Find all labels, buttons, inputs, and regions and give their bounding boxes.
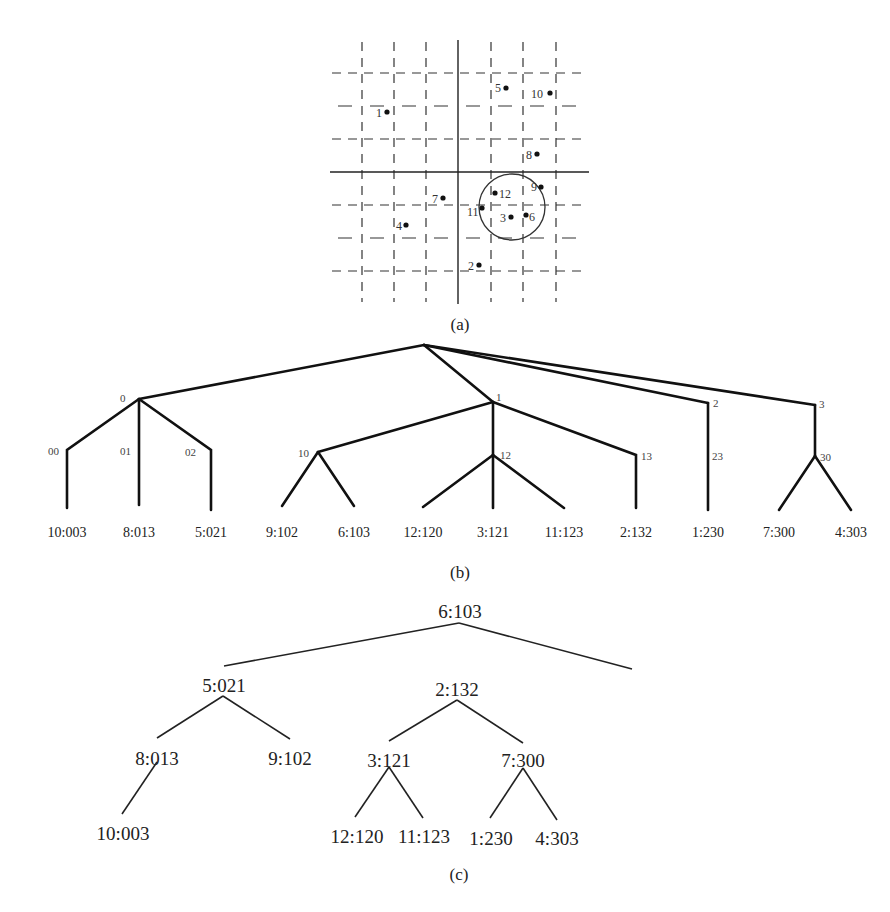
bst-node: 9:102 bbox=[268, 748, 311, 769]
trie-node-label: 3 bbox=[819, 398, 825, 410]
panel-a-grid bbox=[330, 40, 589, 304]
trie-node-label: 1 bbox=[496, 391, 502, 403]
bst-node: 8:013 bbox=[135, 748, 178, 769]
caption-c: (c) bbox=[450, 865, 469, 884]
point-label: 1 bbox=[376, 106, 382, 120]
bst-node: 5:021 bbox=[202, 675, 245, 696]
trie-node-label: 10 bbox=[298, 447, 310, 459]
trie-leaf: 9:102 bbox=[266, 525, 298, 540]
panel-b-leaves: 10:003 8:013 5:021 9:102 6:103 12:120 3:… bbox=[48, 525, 867, 540]
point-label: 12 bbox=[499, 187, 511, 201]
figure-canvas: 1 2 3 4 5 6 7 8 9 10 11 12 (a) bbox=[0, 0, 890, 912]
point-label: 10 bbox=[531, 87, 543, 101]
bst-root-node: 6:103 bbox=[438, 601, 481, 622]
point-label: 4 bbox=[396, 219, 402, 233]
point-label: 9 bbox=[531, 180, 537, 194]
trie-leaf: 10:003 bbox=[48, 525, 87, 540]
panel-c-edges bbox=[122, 623, 632, 820]
point-label: 3 bbox=[500, 211, 506, 225]
point-label: 7 bbox=[432, 192, 438, 206]
trie-node-label: 23 bbox=[712, 450, 724, 462]
trie-leaf: 6:103 bbox=[338, 525, 370, 540]
bst-node: 3:121 bbox=[367, 750, 410, 771]
trie-leaf: 5:021 bbox=[195, 525, 227, 540]
trie-leaf: 4:303 bbox=[835, 525, 867, 540]
caption-b: (b) bbox=[450, 563, 470, 582]
trie-node-label: 2 bbox=[713, 397, 719, 409]
point-label: 6 bbox=[529, 210, 535, 224]
bst-node: 2:132 bbox=[435, 679, 478, 700]
point-label: 11 bbox=[467, 205, 479, 219]
trie-node-label: 0 bbox=[120, 392, 126, 404]
trie-leaf: 1:230 bbox=[692, 525, 724, 540]
trie-leaf: 7:300 bbox=[763, 525, 795, 540]
panel-b-node-labels: 0 1 2 3 00 01 02 10 12 13 23 30 bbox=[48, 391, 832, 463]
bst-node: 10:003 bbox=[97, 823, 150, 844]
point-label: 5 bbox=[495, 81, 501, 95]
trie-node-label: 01 bbox=[120, 445, 131, 457]
bst-node: 1:230 bbox=[469, 828, 512, 849]
trie-node-label: 00 bbox=[48, 445, 60, 457]
point-label: 2 bbox=[468, 259, 474, 273]
trie-leaf: 12:120 bbox=[404, 525, 443, 540]
trie-node-label: 13 bbox=[641, 450, 653, 462]
panel-b-edges bbox=[67, 345, 851, 510]
trie-leaf: 8:013 bbox=[123, 525, 155, 540]
trie-leaf: 11:123 bbox=[545, 525, 583, 540]
bst-node: 11:123 bbox=[398, 826, 450, 847]
trie-leaf: 2:132 bbox=[620, 525, 652, 540]
point-label: 8 bbox=[526, 148, 532, 162]
trie-node-label: 12 bbox=[500, 449, 511, 461]
bst-node: 7:300 bbox=[501, 750, 544, 771]
caption-a: (a) bbox=[451, 315, 470, 334]
trie-leaf: 3:121 bbox=[477, 525, 509, 540]
bst-node: 12:120 bbox=[331, 826, 384, 847]
trie-node-label: 30 bbox=[820, 451, 832, 463]
bst-node: 4:303 bbox=[535, 828, 578, 849]
trie-node-label: 02 bbox=[185, 446, 196, 458]
panel-c-nodes: 6:103 5:021 2:132 8:013 9:102 3:121 7:30… bbox=[97, 601, 579, 849]
